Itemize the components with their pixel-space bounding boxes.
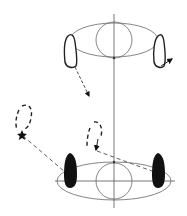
bottom-top-dot	[113, 161, 115, 163]
left-foot-outline-icon	[64, 35, 76, 68]
left-step-dashed-arrow	[75, 67, 89, 96]
right-foot-filled-icon	[152, 153, 165, 188]
far-dashed-line	[23, 136, 65, 172]
right-foot-outline-icon	[154, 35, 166, 68]
top-center-dot	[113, 57, 115, 59]
intermediate-foot-far	[16, 105, 65, 172]
foot-step-diagram: Foot step movement diagram	[0, 0, 187, 216]
dashed-foot-far-icon	[16, 105, 32, 130]
start-position-group	[64, 22, 165, 67]
near-arrow-shaft	[96, 139, 98, 150]
left-foot-filled-icon	[64, 153, 77, 188]
dashed-foot-near-icon	[87, 122, 102, 146]
diagram-svg	[0, 0, 187, 216]
end-position-group	[55, 153, 175, 200]
